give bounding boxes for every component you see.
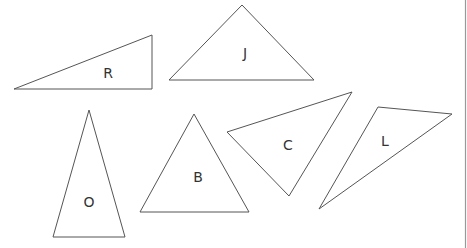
triangle-label: C (283, 137, 293, 153)
triangle-shape (319, 107, 452, 209)
triangle-label: B (193, 169, 203, 185)
triangle-l: L (319, 107, 452, 209)
triangles-diagram: RJOBCL (0, 0, 467, 248)
triangle-j: J (169, 5, 314, 80)
triangle-r: R (14, 35, 152, 89)
triangle-shape (53, 110, 125, 237)
triangle-c: C (227, 92, 352, 196)
triangle-label: R (103, 65, 113, 81)
triangle-shape (140, 114, 249, 212)
triangle-b: B (140, 114, 249, 212)
triangle-label: L (381, 133, 389, 149)
triangle-shape (169, 5, 314, 80)
triangle-shape (14, 35, 152, 89)
triangle-label: J (242, 45, 247, 61)
triangle-label: O (83, 194, 94, 210)
triangle-o: O (53, 110, 125, 237)
